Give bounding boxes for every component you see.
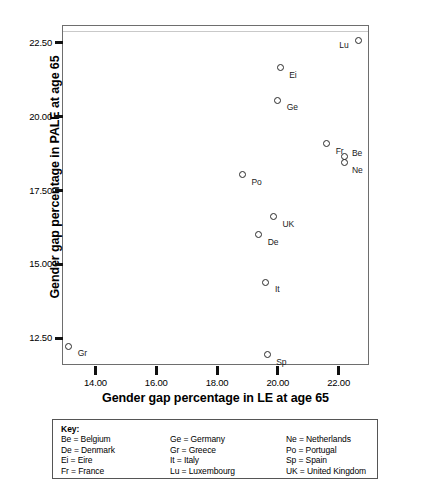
- key-entry: Po = Portugal: [286, 445, 366, 456]
- x-tick-mark: [337, 366, 340, 375]
- data-point-marker: [264, 351, 271, 358]
- x-tick-mark: [216, 366, 219, 375]
- y-tick-label: 12.50: [8, 332, 52, 343]
- data-point-label: Ge: [287, 102, 298, 112]
- x-axis-title: Gender gap percentage in LE at age 65: [62, 391, 369, 405]
- data-point-marker: [65, 343, 72, 350]
- x-tick-label: 16.00: [133, 377, 179, 388]
- data-point-label: Ne: [352, 165, 363, 175]
- data-point-label: De: [268, 237, 279, 247]
- key-entry: Be = Belgium: [61, 434, 115, 445]
- key-entry: Ei = Eire: [61, 455, 115, 466]
- y-tick-mark: [55, 263, 63, 266]
- x-tick-label: 22.00: [316, 377, 362, 388]
- key-entry: Lu = Luxembourg: [170, 466, 235, 477]
- x-tick-mark: [276, 366, 279, 375]
- key-column-1: Be = BelgiumDe = DenmarkEi = EireFr = Fr…: [61, 434, 115, 476]
- y-tick-label: 20.00: [8, 111, 52, 122]
- data-point-label: Sp: [276, 357, 286, 367]
- x-tick-label: 18.00: [194, 377, 240, 388]
- y-tick-mark: [55, 337, 63, 340]
- key-entry: Sp = Spain: [286, 455, 366, 466]
- data-point-label: Ei: [289, 70, 296, 80]
- data-point-label: Be: [352, 148, 362, 158]
- x-tick-label: 20.00: [255, 377, 301, 388]
- x-tick-mark: [94, 366, 97, 375]
- data-point-marker: [274, 97, 281, 104]
- y-tick-label: 17.50: [8, 185, 52, 196]
- plot-area: [62, 25, 369, 365]
- key-entry: De = Denmark: [61, 445, 115, 456]
- key-entry: Gr = Greece: [170, 445, 235, 456]
- data-point-label: Po: [252, 177, 262, 187]
- key-box: Key: Be = BelgiumDe = DenmarkEi = EireFr…: [52, 419, 378, 479]
- y-tick-label: 15.00: [8, 258, 52, 269]
- y-tick-mark: [55, 115, 63, 118]
- data-point-label: It: [275, 284, 280, 294]
- data-point-label: UK: [283, 219, 295, 229]
- key-entry: Ge = Germany: [170, 434, 235, 445]
- key-column-3: Ne = NetherlandsPo = PortugalSp = SpainU…: [286, 434, 366, 476]
- key-entry: It = Italy: [170, 455, 235, 466]
- x-tick-label: 14.00: [72, 377, 118, 388]
- key-entry: UK = United Kingdom: [286, 466, 366, 477]
- key-title: Key:: [61, 424, 79, 434]
- key-entry: Ne = Netherlands: [286, 434, 366, 445]
- scatter-plot-figure: Gender gap percentage in PALE at age 65 …: [0, 0, 430, 494]
- key-column-2: Ge = GermanyGr = GreeceIt = ItalyLu = Lu…: [170, 434, 235, 476]
- y-tick-mark: [55, 41, 63, 44]
- y-tick-mark: [55, 189, 63, 192]
- y-tick-label: 22.50: [8, 37, 52, 48]
- data-point-label: Gr: [78, 348, 87, 358]
- key-entry: Fr = France: [61, 466, 115, 477]
- x-tick-mark: [155, 366, 158, 375]
- plot-top-inner-rule: [63, 31, 368, 32]
- data-point-label: Lu: [339, 40, 348, 50]
